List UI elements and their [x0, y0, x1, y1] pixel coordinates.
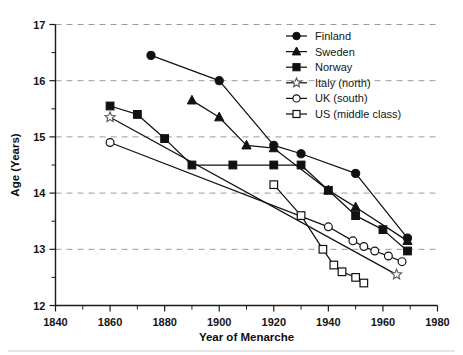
series-finland [147, 51, 412, 242]
marker-open-star [392, 269, 402, 279]
marker-filled-square [324, 186, 332, 194]
tick-marks-group [50, 25, 438, 312]
marker-open-circle [398, 258, 406, 266]
legend-item-sweden: Sweden [286, 46, 355, 58]
marker-filled-triangle [292, 47, 300, 55]
legend-item-italy-north: Italy (north) [286, 77, 371, 89]
marker-open-square [297, 212, 305, 220]
marker-open-circle [324, 223, 332, 231]
marker-filled-triangle [215, 112, 224, 121]
marker-filled-square [270, 161, 278, 169]
marker-filled-square [352, 212, 360, 220]
marker-filled-circle [215, 77, 223, 85]
x-tick-label: 1860 [98, 316, 122, 328]
marker-filled-square [404, 247, 412, 255]
legend-item-uk-south: UK (south) [286, 92, 368, 104]
y-tick-label: 15 [33, 131, 45, 143]
marker-open-square [352, 274, 360, 282]
marker-filled-circle [297, 150, 305, 158]
legend-item-finland: Finland [286, 30, 351, 42]
series-norway [106, 102, 411, 255]
y-tick-label: 16 [33, 75, 45, 87]
marker-open-circle [349, 237, 357, 245]
series-polyline [110, 143, 402, 262]
marker-open-square [338, 268, 346, 276]
marker-open-square [319, 246, 327, 254]
marker-filled-square [106, 102, 114, 110]
y-tick-label: 17 [33, 19, 45, 31]
y-tick-label: 14 [33, 187, 46, 199]
marker-filled-square [161, 135, 169, 143]
x-tick-label: 1960 [371, 316, 395, 328]
marker-filled-triangle [187, 95, 196, 104]
menarche-age-chart: 1213141516171840186018801900192019401960… [0, 0, 463, 355]
marker-open-square [360, 279, 368, 287]
marker-open-star [292, 78, 301, 87]
marker-filled-square [297, 161, 305, 169]
x-tick-label: 1940 [316, 316, 340, 328]
x-tick-label: 1840 [43, 316, 67, 328]
marker-open-circle [360, 243, 368, 251]
marker-open-circle [106, 139, 114, 147]
marker-open-circle [371, 247, 379, 255]
marker-filled-circle [352, 169, 360, 177]
marker-open-square [293, 111, 300, 118]
legend-label: Norway [315, 61, 353, 73]
gridlines-group [56, 25, 438, 250]
legend-label: Italy (north) [315, 77, 371, 89]
legend-label: US (middle class) [315, 108, 401, 120]
marker-open-star [105, 112, 115, 122]
marker-filled-circle [293, 32, 301, 40]
legend-group: FinlandSwedenNorwayItaly (north)UK (sout… [286, 30, 401, 120]
y-tick-label: 12 [33, 300, 45, 312]
marker-filled-triangle [351, 202, 360, 211]
x-tick-label: 1980 [425, 316, 449, 328]
marker-open-square [270, 181, 278, 189]
legend-label: Sweden [315, 46, 355, 58]
marker-filled-circle [147, 51, 155, 59]
series-polyline [274, 185, 364, 283]
y-axis-title: Age (Years) [9, 133, 21, 196]
legend-item-us-middle-class: US (middle class) [286, 108, 401, 120]
marker-filled-square [293, 64, 300, 71]
y-tick-label: 13 [33, 243, 45, 255]
series-uk-south [106, 139, 406, 266]
legend-item-norway: Norway [286, 61, 353, 73]
series-us-middle-class [270, 181, 368, 287]
marker-filled-square [379, 226, 387, 234]
marker-open-circle [384, 252, 392, 260]
marker-open-square [330, 261, 338, 269]
tick-labels-group: 1213141516171840186018801900192019401960… [33, 19, 449, 328]
series-polyline [110, 117, 397, 274]
x-tick-label: 1880 [152, 316, 176, 328]
marker-filled-square [133, 111, 141, 119]
x-axis-title: Year of Menarche [199, 331, 294, 343]
legend-label: UK (south) [315, 92, 368, 104]
x-tick-label: 1900 [207, 316, 231, 328]
marker-filled-square [229, 161, 237, 169]
x-tick-label: 1920 [262, 316, 286, 328]
marker-open-circle [293, 95, 300, 102]
legend-label: Finland [315, 30, 351, 42]
